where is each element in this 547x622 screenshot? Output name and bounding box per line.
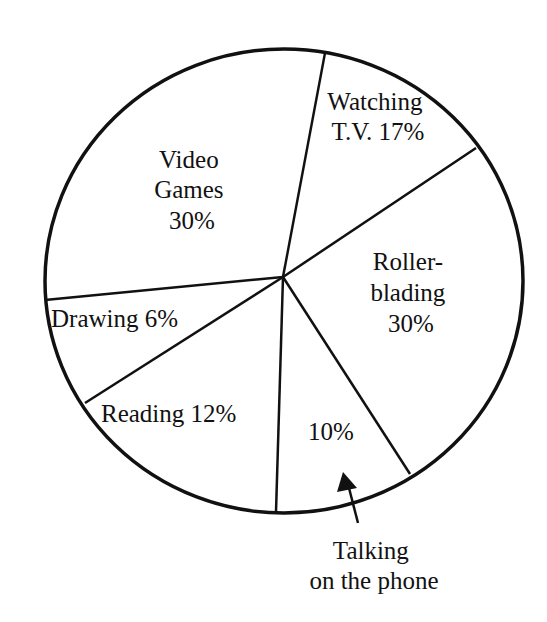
callout-label-phone: Talking on the phone xyxy=(309,537,438,594)
slice-label-drawing: Drawing 6% xyxy=(51,305,178,332)
pie-chart: Video Games 30% Watching T.V. 17% Roller… xyxy=(0,0,547,622)
slice-label-reading: Reading 12% xyxy=(101,400,236,427)
slice-label-phone-percent: 10% xyxy=(308,418,354,445)
